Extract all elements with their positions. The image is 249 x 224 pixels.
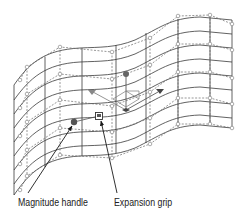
gizmo-left-axis (93, 92, 126, 110)
magnitude-handle-label: Magnitude handle (18, 197, 88, 208)
gizmo-left-handle-icon[interactable] (88, 90, 96, 95)
magnitude-handle-callout-arrow (28, 126, 72, 193)
gizmo-right-handle-icon[interactable] (156, 89, 164, 94)
surface-diagram: Magnitude handle Expansion grip (0, 0, 249, 224)
surface-mesh-canvas (0, 0, 249, 224)
expansion-grip-icon[interactable] (96, 113, 103, 120)
magnitude-handle-icon[interactable] (71, 119, 77, 125)
transform-gizmo[interactable] (88, 71, 164, 112)
expansion-grip-label: Expansion grip (114, 197, 172, 208)
gizmo-up-handle-icon[interactable] (123, 71, 129, 77)
